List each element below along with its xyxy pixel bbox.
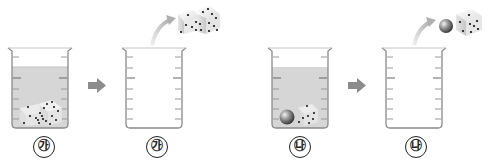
arrow-right-icon — [88, 78, 106, 93]
panel-label-na-before: ㉯ — [289, 136, 311, 158]
metal-ball-removed — [439, 19, 453, 33]
beaker-na-before — [268, 48, 332, 128]
panel-label-ga-before: ㉮ — [33, 136, 55, 158]
die-submerged — [298, 104, 318, 126]
beaker-ga-before — [8, 48, 72, 128]
panel-label-na-after: ㉯ — [405, 136, 427, 158]
die-removed — [456, 9, 482, 36]
curved-arrow-up-icon — [152, 15, 176, 45]
arrow-right-icon — [348, 78, 366, 93]
panel-label-ga-after: ㉮ — [146, 136, 168, 158]
beaker-ga-after — [122, 48, 186, 128]
dice-pair-removed — [178, 6, 220, 34]
curved-arrow-up-icon — [414, 17, 436, 45]
beaker-na-after — [382, 48, 446, 128]
metal-ball-submerged — [280, 110, 295, 125]
